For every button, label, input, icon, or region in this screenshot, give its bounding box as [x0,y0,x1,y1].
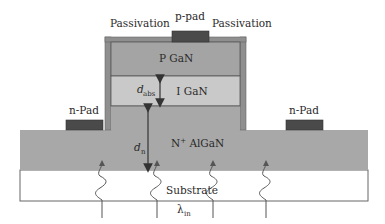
label-d-n: d [134,141,141,153]
label-lambda-sub: in [184,210,191,218]
label-n-pad-right: n-Pad [289,104,319,116]
label-lambda: λ [177,203,184,215]
label-passivation-left: Passivation [110,17,170,29]
n-pad-left [66,120,103,130]
photodiode-cross-section: Passivation p-pad Passivation P GaN I Ga… [0,0,385,224]
mesa-n-region [111,106,240,130]
label-substrate: Substrate [166,184,218,196]
label-d-abs-sub: abs [143,90,156,98]
label-p-pad: p-pad [175,10,205,22]
label-n-pad-left: n-Pad [69,104,99,116]
passivation-left-wall [105,37,111,130]
n-pad-right [286,120,323,130]
label-passivation-right: Passivation [212,17,272,29]
label-p-gan: P GaN [159,52,193,64]
passivation-right-wall [240,37,246,130]
n-algan-layer [20,130,368,170]
label-d-n-sub: n [141,148,146,156]
p-pad [172,31,209,42]
label-i-gan: I GaN [176,85,207,97]
label-n-algan: N+ AlGaN [171,137,224,149]
